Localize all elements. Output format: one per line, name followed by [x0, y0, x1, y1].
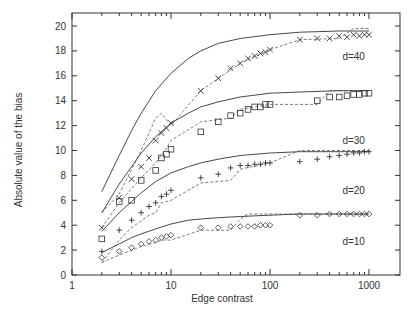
- x-tick-label: 1000: [358, 280, 381, 291]
- series-d-30: [99, 90, 372, 241]
- y-tick-label: 10: [55, 145, 67, 156]
- y-tick-label: 20: [55, 21, 67, 32]
- x-axis-label: Edge contrast: [191, 293, 253, 304]
- plot-series: [99, 29, 372, 263]
- x-tick-labels: 1101001000: [69, 280, 380, 291]
- series-d-10: [99, 211, 372, 262]
- theory-curve: [102, 152, 369, 232]
- series-label: d=10: [342, 236, 365, 247]
- simulation-dashed-curve: [102, 91, 369, 228]
- simulation-markers: [99, 32, 372, 231]
- series-labels: d=40d=30d=20d=10: [342, 51, 365, 248]
- y-tick-label: 16: [55, 70, 67, 81]
- y-tick-label: 2: [60, 245, 66, 256]
- y-tick-label: 4: [60, 220, 66, 231]
- simulation-markers: [99, 90, 372, 241]
- x-tick-label: 10: [165, 280, 177, 291]
- simulation-dashed-curve: [102, 214, 369, 263]
- y-tick-labels: 02468101214161820: [55, 21, 67, 281]
- x-tick-label: 100: [262, 280, 279, 291]
- y-tick-label: 12: [55, 120, 67, 131]
- x-tick-label: 1: [69, 280, 75, 291]
- y-axis-label: Absolute value of the bias: [13, 93, 24, 208]
- y-tick-label: 18: [55, 45, 67, 56]
- series-d-40: [99, 29, 372, 231]
- series-label: d=20: [342, 185, 365, 196]
- y-tick-label: 0: [60, 270, 66, 281]
- y-tick-label: 8: [60, 170, 66, 181]
- bias-vs-edge-contrast-chart: 02468101214161820 1101001000 d=40d=30d=2…: [0, 0, 416, 313]
- series-label: d=30: [342, 135, 365, 146]
- theory-curve: [102, 214, 369, 253]
- y-tick-label: 14: [55, 95, 67, 106]
- simulation-dashed-curve: [102, 29, 369, 213]
- simulation-markers: [99, 211, 372, 260]
- series-label: d=40: [342, 51, 365, 62]
- simulation-markers: [99, 149, 372, 254]
- y-tick-label: 6: [60, 195, 66, 206]
